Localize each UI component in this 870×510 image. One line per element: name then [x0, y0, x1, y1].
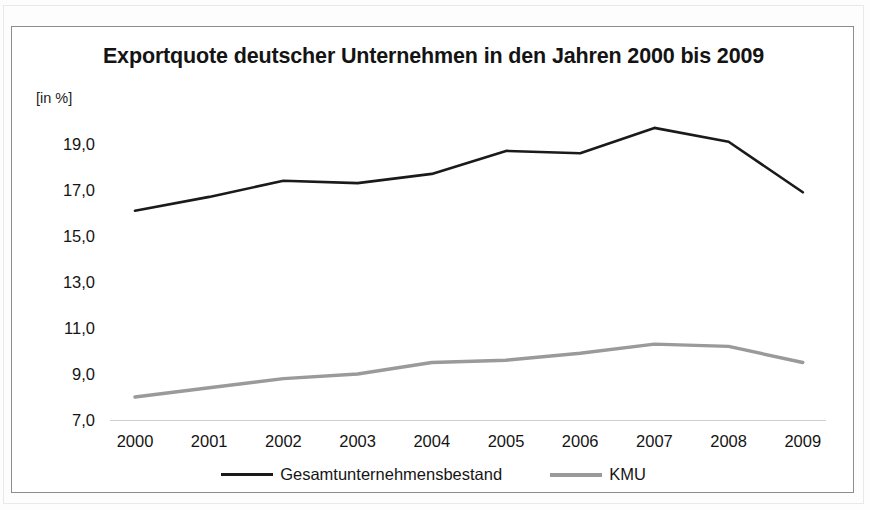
chart-legend: GesamtunternehmensbestandKMU: [12, 465, 855, 484]
legend-label: Gesamtunternehmensbestand: [280, 465, 502, 484]
line-gesamtunternehmensbestand: [135, 128, 803, 211]
series-lines: [12, 27, 855, 494]
legend-swatch-icon: [221, 473, 273, 476]
page-background: Exportquote deutscher Unternehmen in den…: [0, 0, 870, 510]
line-kmu: [135, 344, 803, 397]
chart-frame: Exportquote deutscher Unternehmen in den…: [11, 26, 854, 493]
plot-area: 19,017,015,013,011,09,07,0 2000200120022…: [12, 27, 855, 494]
legend-label: KMU: [609, 465, 646, 484]
legend-swatch-icon: [550, 473, 602, 477]
legend-item-kmu: KMU: [550, 465, 646, 484]
legend-item-gesamtunternehmensbestand: Gesamtunternehmensbestand: [221, 465, 502, 484]
